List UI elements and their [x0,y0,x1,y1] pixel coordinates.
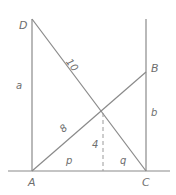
vertex-label-a: A [28,177,36,188]
length-label-base-left-p: p [66,156,72,166]
vertex-label-b: B [151,63,159,74]
segment-diagonal-DC [32,19,146,171]
length-label-base-right-q: q [120,156,126,166]
length-label-altitude: 4 [92,140,98,150]
vertex-label-d: D [19,20,27,31]
segment-diagonal-AB [32,72,146,171]
vertex-label-c: C [142,177,150,188]
side-label-a: a [16,81,22,91]
geometry-figure: D B A C a b 10 8 4 p q [0,0,176,195]
side-label-b: b [151,108,157,118]
